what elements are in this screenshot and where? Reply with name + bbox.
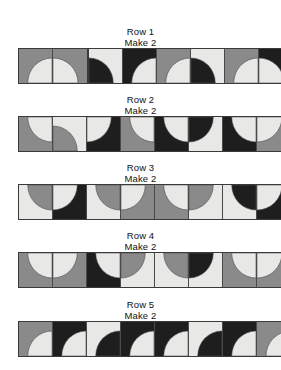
quilt-block[interactable] (189, 185, 223, 219)
row-group-4: Row 4Make 2 (0, 230, 281, 288)
quilt-block[interactable] (53, 49, 87, 83)
quilt-block[interactable] (257, 253, 281, 287)
quilt-block[interactable] (259, 49, 281, 83)
row-caption-5: Row 5Make 2 (0, 299, 281, 321)
quarter-circle-arc-icon (189, 322, 222, 356)
quarter-circle-arc-icon (89, 49, 122, 83)
quilt-block[interactable] (87, 322, 121, 356)
row-caption-1: Row 1Make 2 (0, 26, 281, 48)
quarter-circle-arc-icon (87, 185, 120, 219)
quarter-circle-arc-icon (225, 49, 258, 83)
quarter-circle-arc-icon (155, 185, 188, 219)
quarter-circle-arc-icon (223, 117, 256, 151)
quarter-circle-arc-icon (189, 185, 222, 219)
quilt-block[interactable] (53, 322, 87, 356)
quarter-circle-arc-icon (121, 322, 154, 356)
quarter-circle-arc-icon (189, 117, 222, 151)
block-strip-5-1[interactable] (18, 321, 281, 357)
quilt-block[interactable] (89, 49, 123, 83)
row-strip-area-3 (0, 184, 281, 220)
quarter-circle-arc-icon (223, 322, 256, 356)
quilt-block[interactable] (19, 49, 53, 83)
quarter-circle-arc-icon (87, 117, 120, 151)
quilt-block[interactable] (223, 117, 257, 151)
block-strip-3-1[interactable] (18, 184, 281, 220)
quarter-circle-arc-icon (87, 322, 120, 356)
quilt-block[interactable] (121, 253, 155, 287)
quilt-block[interactable] (53, 185, 87, 219)
row-make-label-5: Make 2 (0, 310, 281, 321)
quarter-circle-arc-icon (123, 49, 156, 83)
quarter-circle-arc-icon (121, 253, 154, 287)
row-caption-4: Row 4Make 2 (0, 230, 281, 252)
quarter-circle-arc-icon (87, 253, 120, 287)
block-strip-1-1[interactable] (18, 48, 88, 84)
quilt-block[interactable] (223, 322, 257, 356)
quilt-block[interactable] (121, 117, 155, 151)
row-group-3: Row 3Make 2 (0, 162, 281, 220)
quilt-block[interactable] (257, 322, 281, 356)
row-strip-area-2 (0, 116, 281, 152)
quarter-circle-arc-icon (53, 322, 86, 356)
quarter-circle-arc-icon (259, 49, 281, 83)
quilt-block[interactable] (123, 49, 157, 83)
row-caption-3: Row 3Make 2 (0, 162, 281, 184)
quilt-block[interactable] (53, 117, 87, 151)
quilt-block[interactable] (53, 253, 87, 287)
quarter-circle-arc-icon (155, 117, 188, 151)
block-strip-1-2[interactable] (88, 48, 281, 84)
quilt-block[interactable] (19, 117, 53, 151)
row-label-1: Row 1 (0, 26, 281, 37)
quilt-block[interactable] (189, 117, 223, 151)
row-label-5: Row 5 (0, 299, 281, 310)
quarter-circle-arc-icon (257, 117, 281, 151)
quarter-circle-arc-icon (19, 253, 52, 287)
quilt-block[interactable] (19, 253, 53, 287)
quarter-circle-arc-icon (19, 185, 52, 219)
quarter-circle-arc-icon (19, 49, 52, 83)
row-make-label-4: Make 2 (0, 241, 281, 252)
row-make-label-1: Make 2 (0, 37, 281, 48)
quarter-circle-arc-icon (223, 253, 256, 287)
quilt-block[interactable] (223, 253, 257, 287)
quilt-block[interactable] (87, 185, 121, 219)
quilt-block[interactable] (225, 49, 259, 83)
quilt-block[interactable] (121, 185, 155, 219)
quilt-block[interactable] (155, 117, 189, 151)
quarter-circle-arc-icon (53, 253, 86, 287)
row-group-1: Row 1Make 2 (0, 26, 281, 84)
block-strip-4-1[interactable] (18, 252, 281, 288)
row-strip-area-4 (0, 252, 281, 288)
quilt-block[interactable] (257, 185, 281, 219)
row-group-2: Row 2Make 2 (0, 94, 281, 152)
quilt-block[interactable] (189, 322, 223, 356)
quilt-block[interactable] (257, 117, 281, 151)
quarter-circle-arc-icon (53, 117, 86, 151)
quarter-circle-arc-icon (53, 185, 86, 219)
quilt-block[interactable] (19, 185, 53, 219)
row-label-2: Row 2 (0, 94, 281, 105)
quilt-block[interactable] (87, 253, 121, 287)
quilt-block[interactable] (87, 117, 121, 151)
quarter-circle-arc-icon (19, 322, 52, 356)
row-label-4: Row 4 (0, 230, 281, 241)
quilt-block[interactable] (121, 322, 155, 356)
row-strip-area-5 (0, 321, 281, 357)
quilt-block[interactable] (19, 322, 53, 356)
quilt-block[interactable] (155, 253, 189, 287)
quilt-block[interactable] (157, 49, 191, 83)
quarter-circle-arc-icon (19, 117, 52, 151)
quarter-circle-arc-icon (53, 49, 87, 83)
block-strip-2-1[interactable] (18, 116, 281, 152)
quarter-circle-arc-icon (189, 253, 222, 287)
quilt-block[interactable] (191, 49, 225, 83)
row-caption-2: Row 2Make 2 (0, 94, 281, 116)
row-strip-area-1 (0, 48, 281, 84)
quarter-circle-arc-icon (257, 253, 281, 287)
quilt-diagram-sheet: Row 1Make 2Row 2Make 2Row 3Make 2Row 4Ma… (0, 0, 281, 370)
quilt-block[interactable] (155, 185, 189, 219)
quilt-block[interactable] (155, 322, 189, 356)
quilt-block[interactable] (223, 185, 257, 219)
quilt-block[interactable] (189, 253, 223, 287)
quarter-circle-arc-icon (157, 49, 190, 83)
